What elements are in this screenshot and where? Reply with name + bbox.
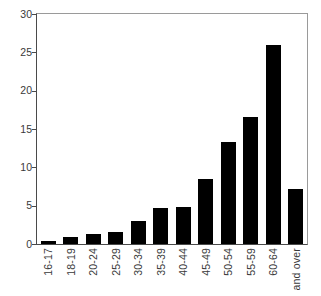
y-axis-tick-mark xyxy=(32,91,36,92)
bar-slot xyxy=(262,14,285,244)
x-axis-tick: 25-29 xyxy=(105,248,128,276)
bar xyxy=(86,234,101,244)
bar-slot xyxy=(285,14,308,244)
bar xyxy=(108,232,123,244)
bar xyxy=(176,207,191,244)
bar xyxy=(243,117,258,244)
x-axis-tick-label: 16-17 xyxy=(43,248,54,276)
bar-slot xyxy=(60,14,83,244)
x-axis-tick-label: 45-49 xyxy=(201,248,212,276)
y-axis: 051015202530 xyxy=(0,0,36,246)
x-axis-tick: 55-59 xyxy=(240,248,263,276)
x-axis-tick-label: 25-29 xyxy=(111,248,122,276)
bar-slot xyxy=(82,14,105,244)
bar-slot xyxy=(240,14,263,244)
x-axis-tick-label: 55-59 xyxy=(246,248,257,276)
bars-container xyxy=(37,14,307,244)
x-axis-tick: 60-64 xyxy=(262,248,285,276)
x-axis-tick-label: 18-19 xyxy=(66,248,77,276)
bar-slot xyxy=(195,14,218,244)
y-axis-tick-mark xyxy=(32,167,36,168)
bar xyxy=(41,241,56,244)
x-axis-tick: 18-19 xyxy=(60,248,83,276)
y-axis-tick-mark xyxy=(32,52,36,53)
bar xyxy=(288,189,303,244)
x-axis-tick-label: 35-39 xyxy=(156,248,167,276)
x-axis-tick-label: 30-34 xyxy=(133,248,144,276)
bar xyxy=(63,237,78,244)
x-axis-tick: 16-17 xyxy=(37,248,60,276)
bar-slot xyxy=(217,14,240,244)
x-axis-tick-label: and over xyxy=(291,248,302,290)
bar-slot xyxy=(172,14,195,244)
bar xyxy=(221,142,236,244)
x-axis-tick: 45-49 xyxy=(195,248,218,276)
bar-chart-figure: 051015202530 16-1718-1920-2425-2930-3435… xyxy=(0,0,321,296)
x-axis-tick: 30-34 xyxy=(127,248,150,276)
y-axis-tick-mark xyxy=(32,14,36,15)
x-axis-tick-label: 50-54 xyxy=(223,248,234,276)
bar xyxy=(266,45,281,244)
bar-slot xyxy=(37,14,60,244)
bar xyxy=(131,221,146,244)
x-axis-tick: 20-24 xyxy=(82,248,105,276)
x-axis-tick-label: 40-44 xyxy=(178,248,189,276)
x-axis-tick: 35-39 xyxy=(150,248,173,276)
x-axis-tick-label: 60-64 xyxy=(268,248,279,276)
y-axis-tick-mark xyxy=(32,129,36,130)
y-axis-tick-mark xyxy=(32,206,36,207)
y-axis-tick-mark xyxy=(32,244,36,245)
bar-slot xyxy=(150,14,173,244)
x-axis-tick-label: 20-24 xyxy=(88,248,99,276)
bar xyxy=(198,179,213,244)
bar-slot xyxy=(105,14,128,244)
x-axis-tick: and over xyxy=(285,248,308,290)
x-axis: 16-1718-1920-2425-2930-3435-3940-4445-49… xyxy=(37,248,307,296)
x-axis-tick: 40-44 xyxy=(172,248,195,276)
bar xyxy=(153,208,168,244)
bar-slot xyxy=(127,14,150,244)
x-axis-tick: 50-54 xyxy=(217,248,240,276)
